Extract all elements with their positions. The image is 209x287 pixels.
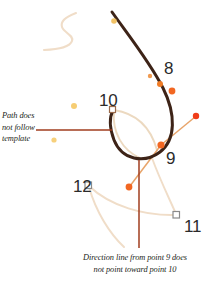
annotation-line: not point toward point 10 — [62, 264, 208, 276]
annotation-path-template: Path does not follow template — [2, 110, 48, 145]
anchor-point-8-minor[interactable] — [148, 74, 152, 78]
direction-handle-dot-upper-right[interactable] — [193, 113, 199, 119]
annotation-direction-line: Direction line from point 9 does not poi… — [62, 252, 208, 275]
anchor-point-8-selected[interactable] — [169, 88, 176, 95]
point-label-11: 11 — [184, 218, 201, 235]
anchor-point-11[interactable] — [173, 212, 180, 219]
point-label-12: 12 — [73, 178, 91, 195]
direction-line-upper-right — [161, 117, 195, 145]
template-curve-12-to-11 — [89, 186, 176, 215]
point-label-9: 9 — [166, 150, 175, 167]
point-label-8: 8 — [164, 60, 173, 77]
template-curve-topleft — [44, 13, 76, 50]
point-label-10: 10 — [99, 92, 117, 109]
annotation-line: Direction line from point 9 does — [62, 252, 208, 264]
anchor-point-9[interactable] — [157, 141, 164, 148]
template-curve-12-tail — [89, 187, 124, 247]
annotation-line: template — [2, 133, 48, 145]
stray-dot-upper — [71, 103, 77, 109]
direction-line-lower-left — [130, 145, 161, 186]
annotation-line: not follow — [2, 122, 48, 134]
main-bezier-path — [110, 12, 172, 159]
stray-dot-top — [111, 18, 117, 24]
stray-dot-lower — [51, 137, 56, 142]
template-curve-loop — [114, 110, 157, 150]
direction-handle-dot-lower-left[interactable] — [126, 184, 133, 191]
annotation-line: Path does — [2, 110, 48, 122]
path-editing-figure: 8 9 10 11 12 Path does not follow templa… — [0, 0, 209, 287]
anchor-point-8[interactable] — [157, 81, 163, 87]
